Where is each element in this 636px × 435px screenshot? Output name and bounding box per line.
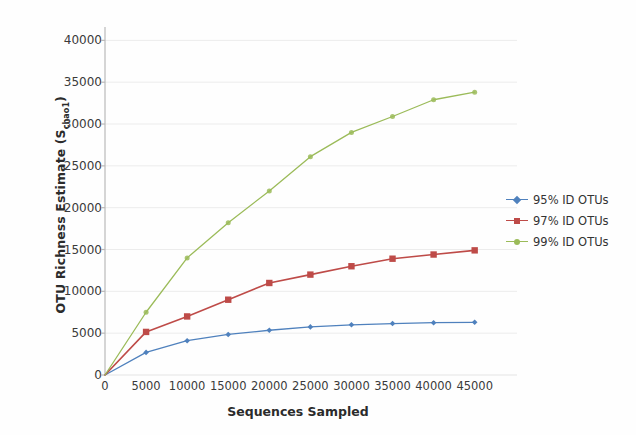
legend-item-label: 95% ID OTUs bbox=[533, 193, 609, 207]
data-point-marker bbox=[472, 319, 478, 325]
data-point-marker bbox=[431, 320, 437, 326]
x-axis-title: Sequences Sampled bbox=[108, 404, 488, 419]
series-1 bbox=[105, 319, 477, 375]
data-point-marker bbox=[185, 255, 190, 260]
data-point-marker bbox=[307, 271, 313, 277]
data-point-marker bbox=[348, 263, 354, 269]
data-point-marker bbox=[472, 90, 477, 95]
series-line bbox=[105, 92, 475, 375]
data-point-marker bbox=[184, 338, 190, 344]
data-point-marker bbox=[144, 310, 149, 315]
data-point-marker bbox=[390, 321, 396, 327]
data-point-marker bbox=[390, 114, 395, 119]
legend-item[interactable]: 95% ID OTUs bbox=[506, 189, 632, 210]
legend-item-label: 99% ID OTUs bbox=[533, 235, 609, 249]
chart-figure: OTU Richness Estimate (Schao1) 050001000… bbox=[0, 0, 636, 435]
series-3 bbox=[105, 90, 477, 375]
legend-item[interactable]: 97% ID OTUs bbox=[506, 210, 632, 231]
series-line bbox=[105, 250, 475, 375]
data-point-marker bbox=[184, 313, 190, 319]
data-point-marker bbox=[349, 130, 354, 135]
data-point-marker bbox=[225, 297, 231, 303]
legend-swatch-icon bbox=[506, 236, 528, 247]
data-point-marker bbox=[308, 324, 314, 330]
legend-swatch-icon bbox=[506, 215, 528, 226]
data-point-marker bbox=[308, 154, 313, 159]
x-axis-tick-labels: 0500010000150002000025000300003500040000… bbox=[0, 381, 636, 401]
data-point-marker bbox=[267, 327, 273, 333]
data-point-marker bbox=[389, 256, 395, 262]
x-axis-tick-label: 45000 bbox=[445, 381, 505, 393]
data-point-marker bbox=[267, 188, 272, 193]
data-point-marker bbox=[430, 251, 436, 257]
data-point-marker bbox=[226, 220, 231, 225]
data-point-marker bbox=[225, 332, 231, 338]
data-point-marker bbox=[143, 329, 149, 335]
legend-marker-icon bbox=[514, 218, 520, 224]
data-point-marker bbox=[431, 97, 436, 102]
data-point-marker bbox=[266, 280, 272, 286]
legend-swatch-icon bbox=[506, 194, 528, 205]
data-point-marker bbox=[471, 247, 477, 253]
series-line bbox=[105, 322, 475, 375]
data-point-marker bbox=[349, 322, 355, 328]
legend-item[interactable]: 99% ID OTUs bbox=[506, 231, 632, 252]
series-2 bbox=[105, 247, 478, 375]
legend-item-label: 97% ID OTUs bbox=[533, 214, 609, 228]
legend-marker-icon bbox=[514, 239, 520, 245]
chart-legend: 95% ID OTUs97% ID OTUs99% ID OTUs bbox=[506, 189, 632, 252]
data-point-marker bbox=[143, 350, 149, 356]
legend-marker-icon bbox=[513, 195, 521, 203]
